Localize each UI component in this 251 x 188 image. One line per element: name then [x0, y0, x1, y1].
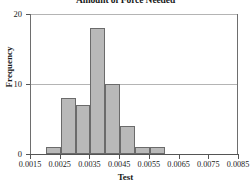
y-tick-label: 20 — [0, 9, 22, 19]
x-axis-label: Test — [0, 172, 251, 182]
x-tick-mark — [179, 154, 180, 159]
histogram-bar — [105, 84, 120, 154]
histogram-bar — [120, 126, 135, 154]
x-axis-line — [30, 154, 238, 155]
y-tick-label: 10 — [0, 79, 22, 89]
x-tick-mark — [238, 154, 239, 159]
x-tick-mark — [119, 154, 120, 159]
histogram-bar — [46, 147, 61, 154]
x-tick-mark — [89, 154, 90, 159]
y-axis-label: Frequency — [4, 32, 14, 102]
histogram-bars — [31, 14, 237, 154]
y-tick-label: 0 — [0, 149, 22, 159]
histogram-bar — [150, 147, 165, 154]
x-tick-label: 0.0085 — [218, 160, 251, 169]
x-tick-mark — [60, 154, 61, 159]
x-tick-mark — [30, 154, 31, 159]
plot-area — [30, 14, 238, 154]
x-tick-mark — [149, 154, 150, 159]
histogram-bar — [90, 28, 105, 154]
histogram-bar — [61, 98, 76, 154]
chart-title: Amount of Force Needed — [0, 0, 251, 5]
histogram-bar — [76, 105, 91, 154]
x-tick-mark — [208, 154, 209, 159]
histogram-figure: Amount of Force Needed Frequency 01020 0… — [0, 0, 251, 188]
histogram-bar — [135, 147, 150, 154]
